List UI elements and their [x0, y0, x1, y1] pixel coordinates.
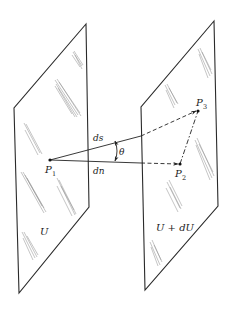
- dn-label: dn: [93, 166, 105, 176]
- surface-u-label: U: [40, 226, 49, 237]
- surface-u-plus-du: U + dU: [141, 21, 218, 290]
- surface-u-hatching: [21, 51, 83, 260]
- point-p1: P 1: [44, 158, 56, 178]
- angle-arc-icon: [115, 141, 117, 161]
- point-p2-label: P: [174, 168, 182, 179]
- point-p3-label: P: [195, 97, 203, 108]
- point-p3-subscript: 3: [203, 103, 207, 111]
- point-p2-dot: [178, 162, 181, 165]
- ds-label: ds: [93, 133, 104, 143]
- point-p1-subscript: 1: [52, 170, 56, 178]
- surface-u-plus-du-label: U + dU: [156, 222, 195, 233]
- point-p3: P 3: [195, 97, 207, 113]
- vector-dn: [50, 160, 178, 164]
- vector-p2-p3: [180, 111, 198, 164]
- point-p1-label: P: [44, 164, 52, 175]
- equipotential-surfaces-diagram: U U + dU: [0, 0, 230, 309]
- point-p1-dot: [48, 158, 51, 161]
- theta-label: θ: [119, 147, 125, 157]
- angle-theta: θ: [115, 141, 125, 161]
- point-p3-dot: [196, 109, 199, 112]
- point-p2: P 2: [174, 162, 186, 182]
- surface-u-outline: [14, 24, 89, 293]
- surface-u: U: [14, 24, 89, 293]
- point-p2-subscript: 2: [182, 174, 186, 182]
